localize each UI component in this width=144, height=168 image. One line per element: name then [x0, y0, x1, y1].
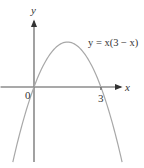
y-axis-label: y — [30, 4, 36, 16]
parabola-curve — [13, 42, 122, 162]
x-tick-label-0: 0 — [25, 89, 31, 101]
x-axis-label: x — [124, 81, 130, 93]
parabola-chart: x y 0 3 y = x(3 − x) — [0, 0, 144, 168]
equation-label: y = x(3 − x) — [88, 37, 139, 49]
x-tick-label-3: 3 — [98, 92, 104, 104]
